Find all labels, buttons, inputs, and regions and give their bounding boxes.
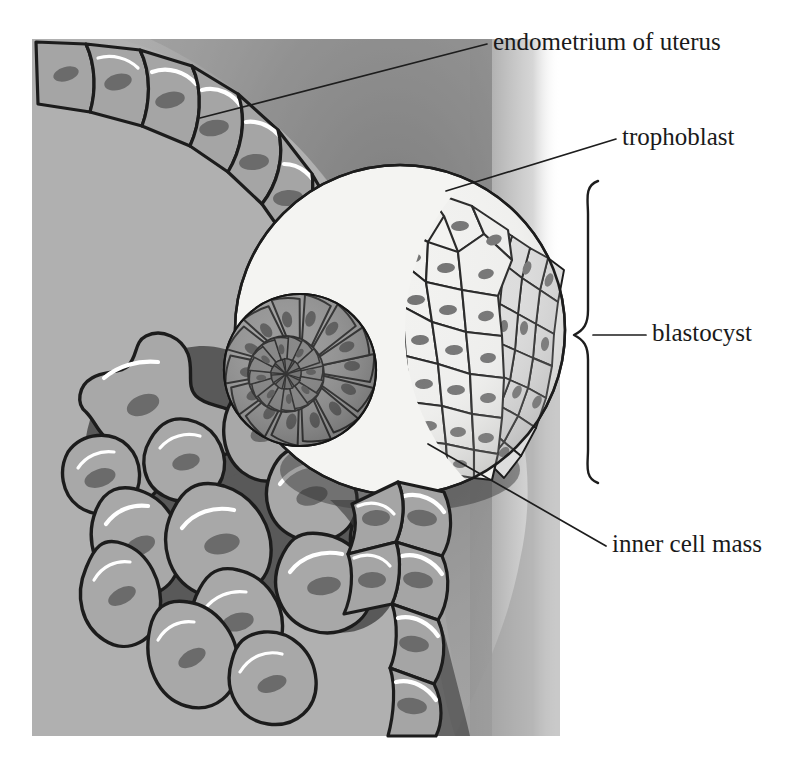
inner-cell-mass (224, 294, 376, 446)
label-endometrium-of-uterus: endometrium of uterus (493, 28, 721, 55)
epithelial-cell (36, 42, 94, 112)
label-inner-cell-mass: inner cell mass (612, 530, 762, 557)
label-blastocyst: blastocyst (652, 319, 752, 346)
stroma-cell (229, 632, 316, 725)
epithelial-cell (344, 542, 399, 614)
label-trophoblast: trophoblast (622, 123, 735, 150)
epithelial-cell (86, 44, 149, 126)
blastocyst-implantation-diagram: endometrium of uterus trophoblast blasto… (0, 0, 811, 772)
blastocyst-brace (574, 181, 598, 483)
figure-canvas: endometrium of uterus trophoblast blasto… (0, 0, 811, 772)
